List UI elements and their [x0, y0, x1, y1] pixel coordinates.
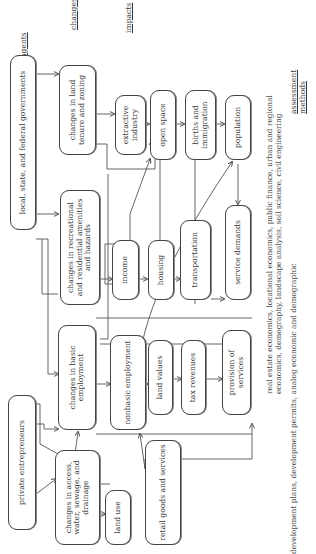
- box-basic-employment: changes in basic employment: [58, 325, 96, 430]
- box-land-values: land values: [148, 340, 173, 415]
- box-open-space: open space: [150, 90, 176, 160]
- rotated-diagram: agents changes impacts assessment method…: [0, 0, 316, 554]
- header-assessment-line2: methods: [298, 81, 307, 114]
- box-governments: local, state, and federal governments: [10, 55, 36, 230]
- box-retail: retail goods and services: [145, 440, 181, 545]
- box-population: population: [225, 95, 251, 160]
- methods-line-3: development plans, development permits, …: [290, 263, 299, 554]
- box-income: income: [112, 240, 139, 300]
- box-births-immigration: births and immigration: [185, 90, 216, 160]
- box-nonbasic-employment: nonbasic employment: [110, 335, 146, 430]
- methods-line-2: economics, demography, landscape analysi…: [275, 114, 284, 394]
- box-access: changes in access, water, sewage, and dr…: [55, 450, 100, 545]
- box-entrepreneurs: private entrepreneurs: [8, 395, 36, 530]
- box-provision-of-services: provision of services: [222, 330, 251, 415]
- box-extractive-industry: extractive industry: [115, 95, 146, 155]
- header-changes: changes: [70, 0, 79, 30]
- box-service-demands: service demands: [225, 205, 251, 300]
- box-land-tenure: changes in land tenure and zoning: [59, 65, 96, 155]
- box-housing: housing: [148, 240, 174, 300]
- box-land-use: land use: [105, 490, 131, 545]
- header-impacts: impacts: [125, 3, 134, 33]
- header-assessment-methods: assessment methods: [290, 70, 307, 114]
- box-recreational: changes in recreational and residential …: [60, 190, 100, 305]
- box-transportation: transportation: [180, 220, 211, 300]
- box-tax-revenues: tax revenues: [181, 340, 206, 415]
